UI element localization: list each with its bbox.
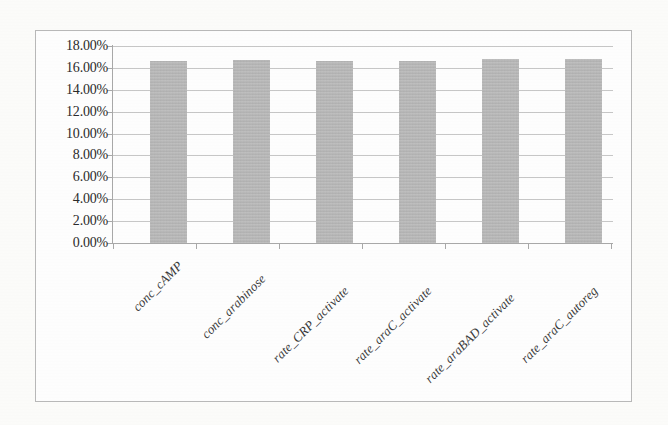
x-axis-labels: conc_cAMP conc_arabinose rate_CRP_activa…: [0, 0, 668, 425]
scanned-page: 18.00% 16.00% 14.00% 12.00% 10.00% 8.00%…: [0, 0, 668, 425]
